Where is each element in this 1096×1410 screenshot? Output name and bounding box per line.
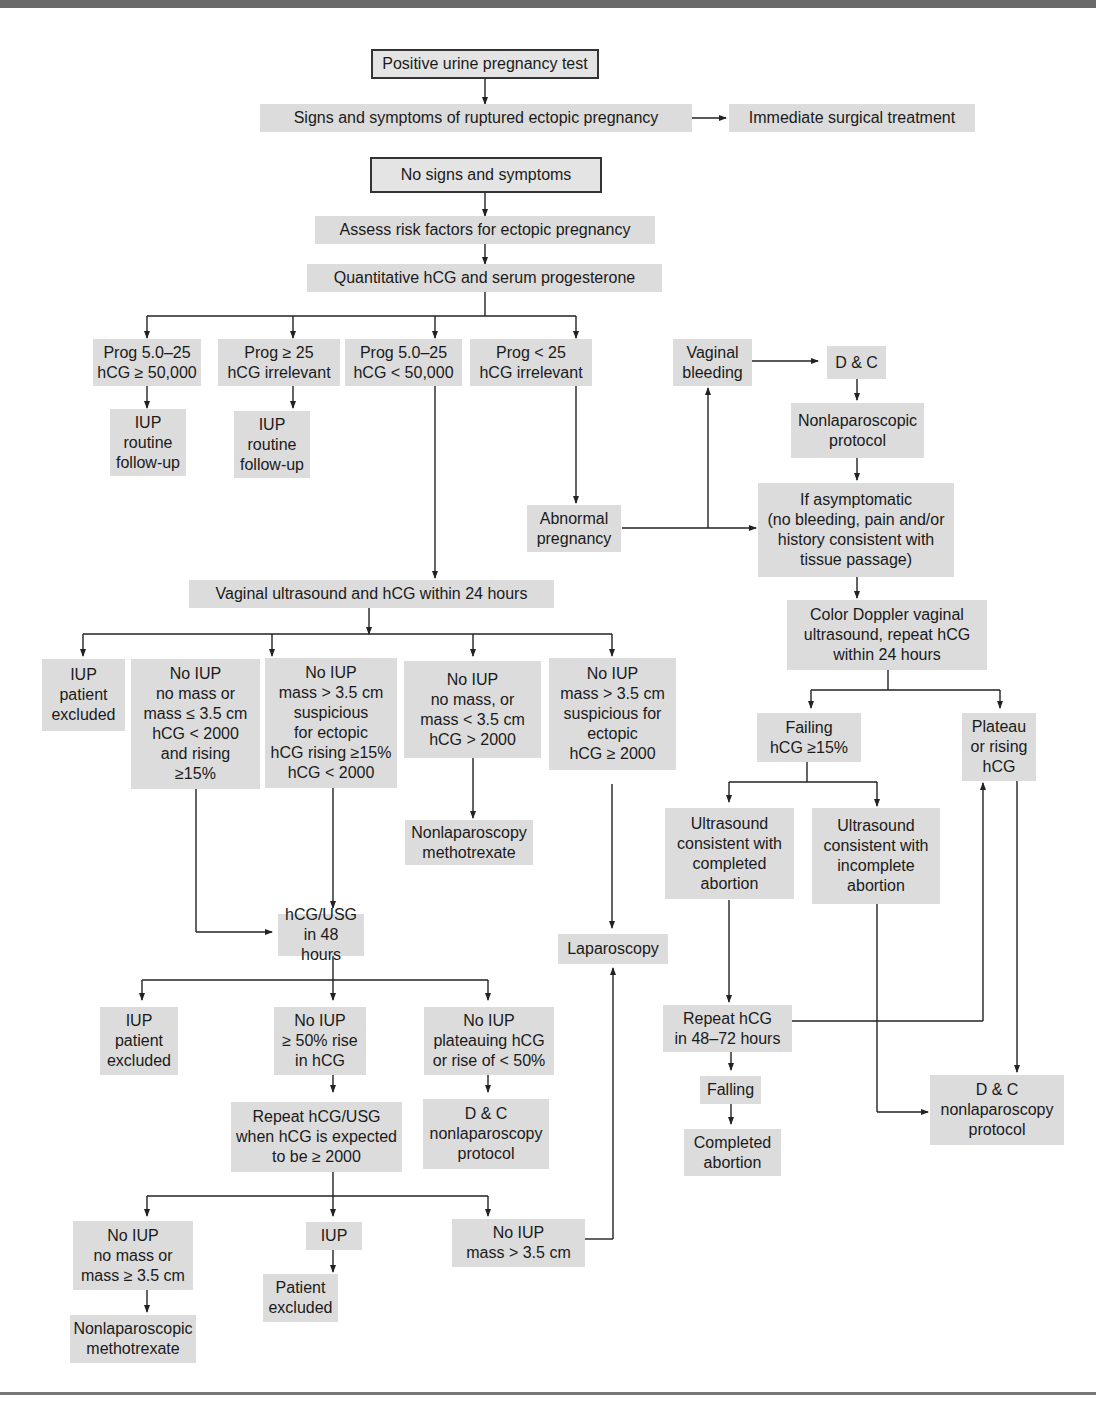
node-dc-nonlap-left: D & C nonlaparoscopy protocol xyxy=(423,1099,549,1169)
bottom-rule xyxy=(0,1392,1096,1395)
node-ruptured-signs: Signs and symptoms of ruptured ectopic p… xyxy=(260,104,692,132)
node-nonlap-methotrexate-mid: Nonlaparoscopy methotrexate xyxy=(405,820,533,865)
node-failing-hcg: Failing hCG ≥15% xyxy=(757,713,861,762)
node-us-no-iup-rising: No IUP no mass or mass ≤ 3.5 cm hCG < 20… xyxy=(131,659,260,789)
node-quant-hcg: Quantitative hCG and serum progesterone xyxy=(307,264,662,292)
node-h48-no-iup-rise: No IUP ≥ 50% rise in hCG xyxy=(274,1007,366,1075)
node-positive-test: Positive urine pregnancy test xyxy=(371,49,599,79)
node-prog-a: Prog 5.0–25 hCG ≥ 50,000 xyxy=(93,339,201,386)
node-immediate-surgery: Immediate surgical treatment xyxy=(729,104,975,132)
node-final-iup: IUP xyxy=(306,1222,362,1250)
node-nonlap-protocol: Nonlaparoscopic protocol xyxy=(791,403,924,458)
node-repeat-hcg-usg: Repeat hCG/USG when hCG is expected to b… xyxy=(231,1102,402,1172)
node-us-no-iup-suspicious: No IUP mass > 3.5 cm suspicious for ecto… xyxy=(265,658,397,788)
node-h48-iup-excluded: IUP patient excluded xyxy=(100,1007,178,1075)
node-prog-d: Prog < 25 hCG irrelevant xyxy=(470,339,592,386)
node-repeat-hcg-4872: Repeat hCG in 48–72 hours xyxy=(663,1005,792,1052)
node-dc-top: D & C xyxy=(827,346,886,379)
node-completed-abortion: Completed abortion xyxy=(684,1129,781,1176)
node-final-no-iup-mass: No IUP no mass or mass ≥ 3.5 cm xyxy=(73,1221,193,1290)
node-h48-no-iup-plateau: No IUP plateauing hCG or rise of < 50% xyxy=(424,1007,554,1075)
node-abnormal-pregnancy: Abnormal pregnancy xyxy=(527,505,621,552)
node-iup-followup-a: IUP routine follow-up xyxy=(110,409,186,476)
node-laparoscopy: Laparoscopy xyxy=(558,934,668,964)
node-final-no-iup-gt35: No IUP mass > 3.5 cm xyxy=(452,1219,585,1267)
node-nonlap-methotrexate-bottom: Nonlaparoscopic methotrexate xyxy=(70,1315,196,1363)
node-prog-b: Prog ≥ 25 hCG irrelevant xyxy=(218,339,340,386)
node-us-completed: Ultrasound consistent with completed abo… xyxy=(665,808,794,899)
node-dc-nonlap-right: D & C nonlaparoscopy protocol xyxy=(930,1075,1064,1145)
node-us-no-iup-gt2000: No IUP no mass, or mass < 3.5 cm hCG > 2… xyxy=(404,661,541,758)
node-vaginal-bleeding: Vaginal bleeding xyxy=(673,339,752,386)
node-vaginal-us-24: Vaginal ultrasound and hCG within 24 hou… xyxy=(189,580,554,608)
node-iup-followup-b: IUP routine follow-up xyxy=(234,411,310,478)
node-us-no-iup-ectopic: No IUP mass > 3.5 cm suspicious for ecto… xyxy=(549,658,676,770)
node-color-doppler: Color Doppler vaginal ultrasound, repeat… xyxy=(787,600,987,670)
node-us-incomplete: Ultrasound consistent with incomplete ab… xyxy=(812,808,940,904)
node-falling: Falling xyxy=(700,1076,761,1104)
node-us-iup-excluded: IUP patient excluded xyxy=(42,659,125,731)
node-no-signs: No signs and symptoms xyxy=(370,157,602,193)
node-hcg-usg-48: hCG/USG in 48 hours xyxy=(278,914,364,956)
node-plateau-rising: Plateau or rising hCG xyxy=(962,713,1036,781)
node-patient-excluded: Patient excluded xyxy=(263,1274,338,1322)
node-if-asymptomatic: If asymptomatic (no bleeding, pain and/o… xyxy=(758,483,954,577)
node-prog-c: Prog 5.0–25 hCG < 50,000 xyxy=(345,339,462,386)
node-assess-risk: Assess risk factors for ectopic pregnanc… xyxy=(315,216,655,244)
